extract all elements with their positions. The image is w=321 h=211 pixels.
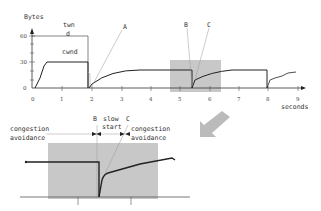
x-tick-6: 6 <box>208 96 212 102</box>
twnd-label-2: d <box>66 30 70 38</box>
x-tick-4: 4 <box>149 96 153 102</box>
x-tick-5: 5 <box>178 96 182 102</box>
tcp-window-diagram: Bytes twn d cwnd A B C 60 30 0 0 1 2 3 4… <box>0 0 321 211</box>
x-tick-7: 7 <box>237 96 241 102</box>
marker-c-label: C <box>207 21 211 29</box>
y-tick-60: 60 <box>20 33 27 39</box>
x-tick-8: 8 <box>266 96 270 102</box>
left-phase-label-2: avoidance <box>10 134 45 142</box>
detail-marker-b-label: B <box>93 115 97 123</box>
x-tick-3: 3 <box>120 96 124 102</box>
marker-a-guide <box>92 30 122 86</box>
right-phase-label-2: avoidance <box>131 134 166 142</box>
marker-a-label: A <box>123 23 127 31</box>
cwnd-line <box>35 62 88 88</box>
zoom-region <box>170 60 221 92</box>
arrow-left-icon <box>125 132 130 136</box>
slow-start-label-1: slow <box>103 115 119 123</box>
x-tick-0: 0 <box>31 96 35 102</box>
right-phase-label-1: congestion <box>131 125 170 133</box>
y-tick-0: 0 <box>23 85 27 91</box>
x-axis-label: seconds <box>281 103 308 111</box>
slow-start-label-2: start <box>102 123 122 131</box>
left-phase-label-1: congestion <box>10 125 49 133</box>
x-tick-2: 2 <box>90 96 94 102</box>
x-tick-9: 9 <box>296 96 300 102</box>
marker-b-label: B <box>184 21 188 29</box>
x-tick-1: 1 <box>60 96 64 102</box>
cwnd-label: cwnd <box>62 48 78 56</box>
detail-marker-c-label: C <box>126 115 130 123</box>
y-axis-arrow-icon <box>30 28 34 34</box>
zoom-arrow-icon <box>200 111 230 137</box>
cwnd-recovery-3 <box>267 72 296 88</box>
y-axis-label: Bytes <box>24 13 44 21</box>
zoom-detail-region <box>48 143 158 199</box>
x-axis-arrow-icon <box>301 86 306 90</box>
y-tick-30: 30 <box>20 59 27 65</box>
twnd-label-1: twn <box>63 21 75 29</box>
